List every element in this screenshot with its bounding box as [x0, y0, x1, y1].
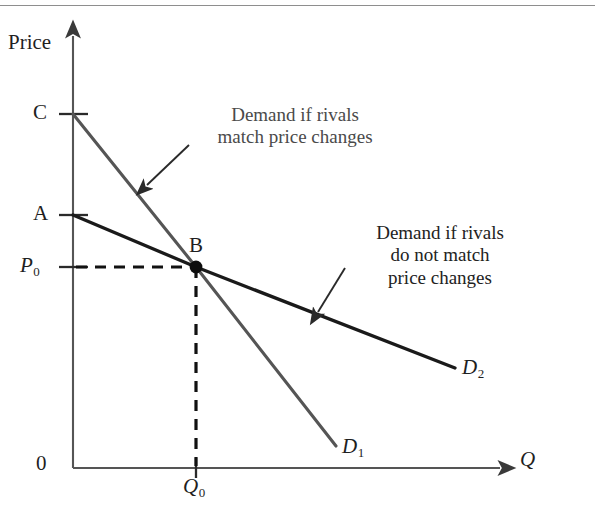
curve-label-d1-subscript: 1 — [357, 445, 364, 460]
annotation-arrow-steep-curve — [147, 145, 189, 185]
figure-canvas: Price Q 0 C A B P0 Q0 D1 D2 Demand if ri… — [0, 0, 595, 526]
annotation-flat-curve: Demand if rivals do not match price chan… — [340, 222, 540, 289]
label-q0: Q0 — [183, 474, 205, 500]
label-c-intercept: C — [33, 100, 47, 125]
x-axis-label: Q — [520, 447, 535, 472]
curve-label-d1-base: D — [342, 434, 357, 458]
curve-label-d1: D1 — [342, 434, 364, 460]
annotation-flat-curve-line2: do not match — [340, 244, 540, 266]
label-q0-subscript: 0 — [198, 485, 205, 500]
annotation-flat-curve-line3: price changes — [340, 267, 540, 289]
label-a-intercept: A — [33, 201, 48, 226]
label-p0-subscript: 0 — [33, 264, 40, 279]
y-axis-label: Price — [8, 30, 51, 55]
annotation-flat-curve-line1: Demand if rivals — [340, 222, 540, 244]
curve-label-d2-base: D — [462, 355, 477, 379]
curve-label-d2: D2 — [462, 355, 484, 381]
curve-label-d2-subscript: 2 — [477, 366, 484, 381]
origin-label: 0 — [36, 451, 47, 476]
label-kink-point-b: B — [189, 233, 203, 258]
label-p0: P0 — [20, 253, 40, 279]
demand-curve-d1 — [73, 114, 336, 446]
annotation-steep-curve: Demand if rivals match price changes — [190, 104, 400, 149]
label-q0-base: Q — [183, 474, 198, 498]
annotation-steep-curve-line2: match price changes — [190, 126, 400, 148]
kink-point-marker — [190, 261, 203, 274]
annotation-steep-curve-line1: Demand if rivals — [190, 104, 400, 126]
label-p0-base: P — [20, 253, 33, 277]
